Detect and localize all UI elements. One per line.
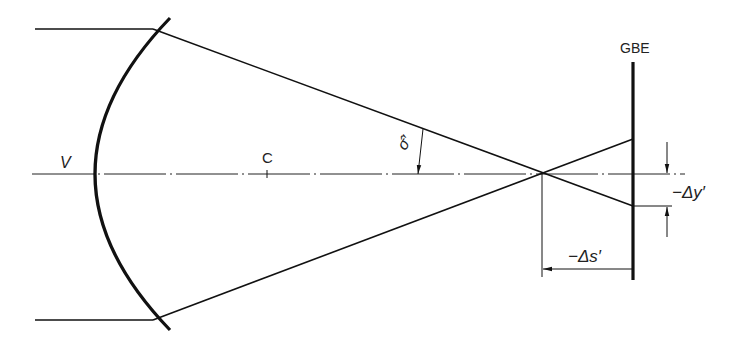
delta-y-label: −Δy′ <box>672 183 706 202</box>
vertex-label: V <box>60 154 72 171</box>
reflected-ray-top <box>153 29 633 206</box>
optics-diagram: GBE V C σ̂′ −Δy′ −Δs′ <box>0 0 739 344</box>
angle-arrow <box>418 129 423 174</box>
reflected-ray-bottom <box>153 139 633 320</box>
center-label: C <box>262 149 273 166</box>
delta-s-label: −Δs′ <box>568 247 602 266</box>
image-plane-label: GBE <box>620 40 650 56</box>
angle-label: σ̂′ <box>393 132 415 153</box>
